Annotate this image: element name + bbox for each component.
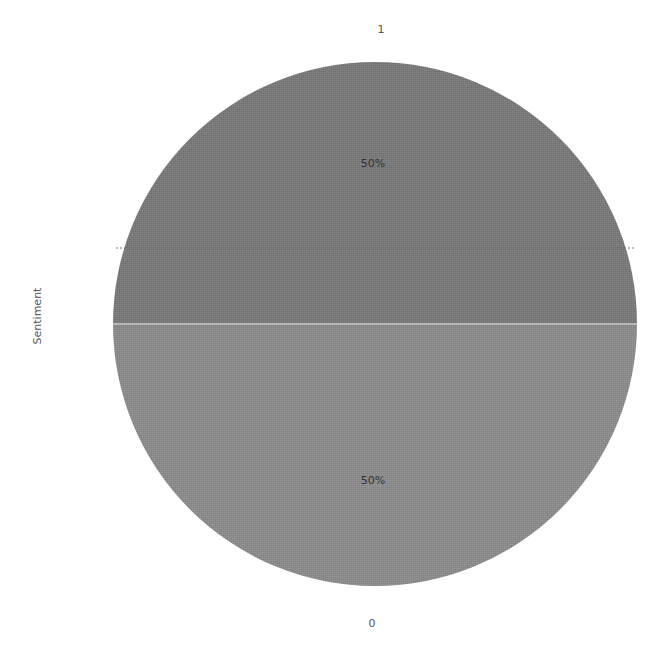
slice-pct-label-1: 50%: [361, 157, 385, 170]
category-label-1: 1: [378, 23, 385, 36]
category-label-0: 0: [369, 617, 376, 630]
pie-chart: 50% 50% 1 0 Sentiment: [0, 0, 659, 647]
y-axis-label: Sentiment: [31, 287, 44, 345]
slice-pct-label-0: 50%: [361, 474, 385, 487]
